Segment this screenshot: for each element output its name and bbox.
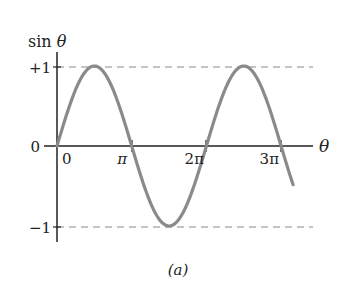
x-axis-label: θ [319,136,329,156]
x-tick-label-pi: π [116,150,128,168]
sine-chart: sin θ +1 0 −1 0 π 2π 3π θ (a) [0,0,343,293]
y-axis-label: sin θ [28,32,67,51]
x-tick-label-2pi: 2π [185,150,205,168]
x-tick-label-3pi: 3π [260,150,280,168]
x-tick-label-zero: 0 [62,150,72,168]
y-tick-label-zero: 0 [30,138,40,156]
y-tick-label-plus-one: +1 [29,59,51,77]
y-tick-label-minus-one: −1 [29,219,51,237]
figure-caption: (a) [168,261,189,279]
